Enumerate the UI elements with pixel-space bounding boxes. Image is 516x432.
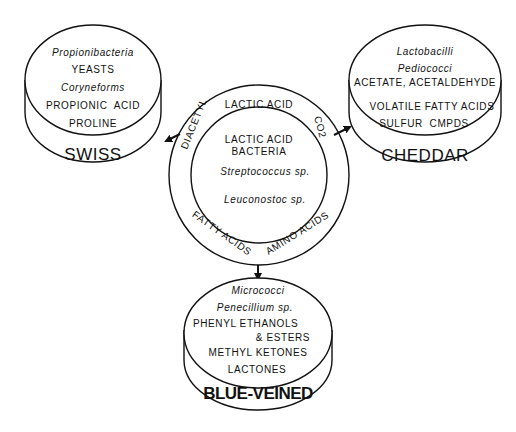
ring-label-lactic-acid: LACTIC ACID	[225, 99, 293, 110]
swiss-item: Propionibacteria	[52, 47, 134, 58]
cheddar-label: CHEDDAR	[381, 146, 469, 165]
hub-organism: Leuconostoc sp.	[224, 194, 306, 205]
cheese-flavor-diagram: Propionibacteria YEASTS Coryneforms PROP…	[0, 0, 516, 432]
blue-veined-item: METHYL KETONES	[209, 347, 308, 358]
hub-title: LACTIC ACID	[225, 134, 293, 145]
lactic-acid-bacteria-hub: LACTIC ACID DIACETYL CO2 FATTY ACIDS AMI…	[169, 85, 349, 265]
blue-veined-label: BLUE-VEINED	[203, 384, 313, 403]
blue-veined-item: LACTONES	[228, 364, 287, 375]
cheddar-item: SULFUR CMPDS	[379, 118, 468, 129]
cheddar-cheese-wheel: Lactobacilli Pediococci ACETATE, ACETALD…	[349, 25, 501, 165]
blue-veined-cheese-wheel: Micrococci Penecillium sp. PHENYL ETHANO…	[184, 278, 332, 410]
swiss-item: PROPIONIC ACID	[46, 100, 140, 111]
swiss-cheese-wheel: Propionibacteria YEASTS Coryneforms PROP…	[25, 25, 161, 164]
blue-veined-item: PHENYL ETHANOLS	[193, 318, 298, 329]
swiss-item: Coryneforms	[61, 82, 125, 93]
swiss-label: SWISS	[64, 145, 121, 164]
blue-veined-item: Micrococci	[231, 285, 284, 296]
swiss-item: PROLINE	[69, 118, 117, 129]
hub-title: BACTERIA	[232, 146, 287, 157]
cheddar-item: VOLATILE FATTY ACIDS	[370, 101, 495, 112]
swiss-item: YEASTS	[71, 64, 114, 75]
cheddar-item: Lactobacilli	[397, 46, 454, 57]
cheddar-item: Pediococci	[398, 63, 453, 74]
blue-veined-item: & ESTERS	[256, 332, 310, 343]
cheddar-item: ACETATE, ACETALDEHYDE	[354, 77, 496, 88]
hub-organism: Streptococcus sp.	[220, 166, 310, 177]
blue-veined-item: Penecillium sp.	[217, 302, 293, 313]
